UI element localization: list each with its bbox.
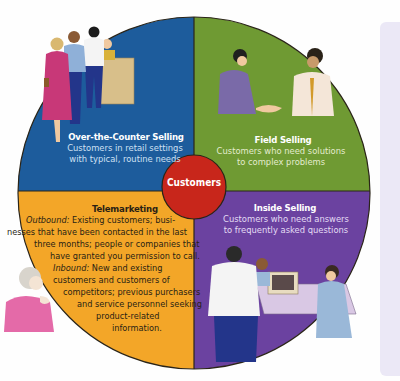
inbound-label: Inbound:	[53, 263, 89, 273]
description-line: Customers in retail settings	[60, 143, 190, 154]
telemarketing-line: nesses that have been contacted in the l…	[7, 227, 187, 239]
telemarketing-line: and service personnel seeking	[77, 299, 202, 311]
description-line: to frequently asked questions	[212, 225, 360, 236]
description-line: with typical, routine needs	[60, 154, 190, 165]
center-label: Customers	[162, 177, 226, 188]
description-line: Customers who need answers	[212, 214, 360, 225]
over-the-counter-title: Over-the-Counter Selling	[62, 131, 190, 143]
field-selling-description: Customers who need solutions to complex …	[206, 146, 356, 168]
telemarketing-line: Outbound: Existing customers; busi-	[26, 215, 175, 227]
line-text: Existing customers; busi-	[69, 215, 175, 225]
over-the-counter-description: Customers in retail settings with typica…	[60, 143, 190, 165]
inside-selling-title: Inside Selling	[220, 202, 350, 214]
field-selling-title: Field Selling	[218, 134, 348, 146]
inside-selling-description: Customers who need answers to frequently…	[212, 214, 360, 236]
telemarketing-line: information.	[112, 323, 162, 335]
telemarketing-title: Telemarketing	[60, 203, 190, 215]
telemarketing-line: have granted you permission to call.	[50, 251, 200, 263]
telemarketing-line: product-related	[96, 311, 159, 323]
telemarketing-line: customers and customers of	[53, 275, 170, 287]
line-text: New and existing	[89, 263, 162, 273]
description-line: to complex problems	[206, 157, 356, 168]
telemarketing-line: Inbound: New and existing	[53, 263, 162, 275]
telemarketing-line: competitors; previous purchasers	[63, 287, 200, 299]
outbound-label: Outbound:	[26, 215, 69, 225]
description-line: Customers who need solutions	[206, 146, 356, 157]
telemarketing-line: three months; people or companies that	[34, 239, 200, 251]
